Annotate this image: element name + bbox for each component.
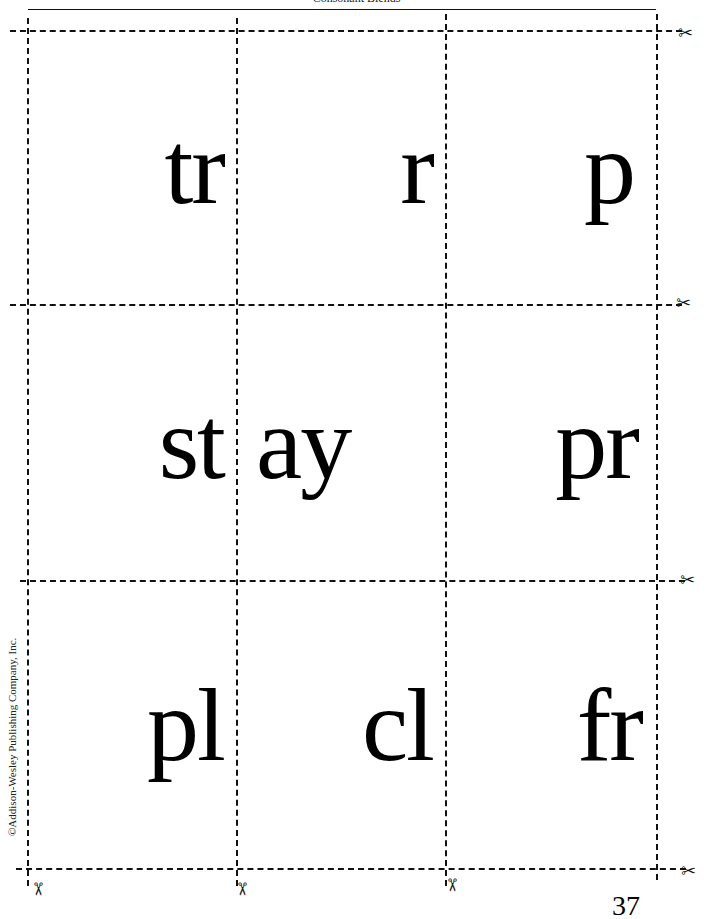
header-rule [28, 9, 656, 10]
scissors-icon: ✂ [680, 571, 695, 589]
scissors-icon: ✂ [676, 294, 691, 312]
flashcard-cl: cl [238, 582, 445, 868]
flashcard-st: st [29, 306, 236, 580]
flashcard-tr: tr [29, 32, 236, 304]
copyright-notice: ©Addison-Wesley Publishing Company, Inc. [6, 638, 18, 836]
flashcard-r: r [238, 32, 445, 304]
scissors-icon: ✂ [233, 881, 251, 896]
scissors-icon: ✂ [681, 862, 696, 880]
card-text: ay [256, 391, 350, 495]
card-text: pr [555, 391, 638, 495]
card-text: p [584, 116, 634, 220]
flashcard-pr: pr [447, 306, 656, 580]
card-text: tr [164, 116, 224, 220]
page-number: 37 [612, 892, 640, 919]
scissors-icon: ✂ [678, 24, 693, 42]
scissors-icon: ✂ [29, 881, 47, 896]
page-header-title: Consonant Blends [0, 0, 713, 5]
scissors-icon: ✂ [443, 877, 461, 892]
flashcard-pl: pl [29, 582, 236, 868]
flashcard-fr: fr [447, 582, 656, 868]
card-text: pl [147, 673, 224, 777]
card-text: st [159, 391, 224, 495]
card-text: fr [577, 673, 642, 777]
flashcard-ay: ay [238, 306, 445, 580]
cut-line-vertical-right [656, 14, 658, 880]
cut-line-horizontal-bottom [16, 868, 686, 870]
flashcard-p: p [447, 32, 656, 304]
card-text: cl [362, 673, 433, 777]
card-text: r [400, 116, 433, 220]
